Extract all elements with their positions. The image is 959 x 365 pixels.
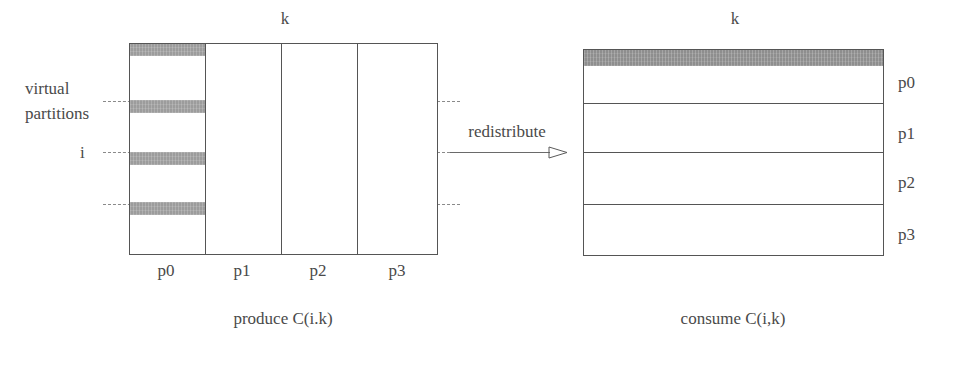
producer-shaded-band-1 [130, 44, 206, 56]
producer-shaded-band-4 [130, 202, 206, 215]
producer-caption: produce C(i.k) [233, 310, 332, 327]
consumer-row-divider-1 [584, 103, 883, 104]
figure-canvas: k k virtual partitions i p0 p1 p2 p3 pro… [0, 0, 959, 365]
consumer-matrix-grid [583, 49, 884, 256]
consumer-row-divider-3 [584, 204, 883, 205]
producer-column-divider-1 [205, 44, 206, 254]
redistribute-arrow-icon [450, 146, 568, 160]
consumer-k-axis-label: k [731, 10, 740, 27]
redistribute-label: redistribute [468, 123, 545, 140]
consumer-row-label-p2: p2 [898, 174, 915, 191]
consumer-shaded-band-1 [584, 50, 883, 66]
producer-k-axis-label: k [281, 10, 290, 27]
producer-shaded-band-2 [130, 100, 206, 113]
producer-matrix-grid [129, 43, 438, 255]
producer-column-divider-3 [357, 44, 358, 254]
consumer-row-divider-2 [584, 152, 883, 153]
producer-column-label-p1: p1 [234, 262, 251, 279]
consumer-caption: consume C(i,k) [681, 310, 786, 327]
producer-column-label-p3: p3 [389, 262, 406, 279]
producer-column-label-p0: p0 [158, 262, 175, 279]
index-i-label: i [80, 144, 85, 161]
producer-column-divider-2 [281, 44, 282, 254]
consumer-row-label-p0: p0 [898, 74, 915, 91]
producer-column-label-p2: p2 [310, 262, 327, 279]
virtual-partitions-label-line1: virtual [25, 80, 69, 97]
consumer-row-label-p3: p3 [898, 226, 915, 243]
consumer-row-label-p1: p1 [898, 125, 915, 142]
producer-shaded-band-3 [130, 152, 206, 165]
virtual-partitions-label-line2: partitions [25, 105, 89, 122]
